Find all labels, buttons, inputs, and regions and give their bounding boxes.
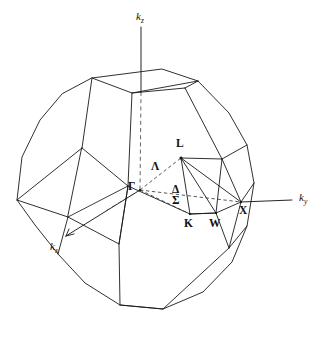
edge-topright-to-right-upper xyxy=(185,88,222,159)
brillouin-zone-figure: kz ky kx Γ L K W X Λ Δ Σ xyxy=(0,0,325,343)
front-left-facets xyxy=(17,78,128,305)
left-square-hidden-diagonal xyxy=(68,186,128,217)
kx-axis-line xyxy=(66,190,140,236)
brillouin-zone-drawing xyxy=(0,0,325,343)
edge-topleft-to-midleft xyxy=(82,78,92,148)
kz-axis-hidden-segment xyxy=(140,92,141,190)
line-L-W xyxy=(181,158,216,213)
edge-bottom-left-slant xyxy=(120,305,163,309)
edge-lowerfacet-to-bottom xyxy=(163,248,229,309)
point-label-gamma: Γ xyxy=(128,181,135,193)
line-L-upper-right xyxy=(181,158,222,159)
kx-axis-label: kx xyxy=(50,241,58,255)
kz-axis-label: kz xyxy=(136,11,144,25)
top-face-edges xyxy=(92,78,198,93)
front-centre-facet xyxy=(119,93,216,244)
top-face-front-edge xyxy=(132,88,185,93)
vertex-dot-K xyxy=(189,213,191,215)
edge-left-vertex-to-square xyxy=(17,200,68,217)
line-K-W-base xyxy=(190,213,216,214)
ky-axis-line xyxy=(241,200,292,202)
line-Delta-Gamma-X xyxy=(140,190,241,202)
ky-axis-subscript: y xyxy=(304,197,307,206)
kz-axis-subscript: z xyxy=(141,16,144,25)
vertex-dot-L xyxy=(180,157,183,160)
line-L-X xyxy=(181,158,241,202)
point-label-x: X xyxy=(239,205,247,217)
edge-X-upper-small xyxy=(222,145,247,159)
edge-square-to-bottom xyxy=(119,244,120,305)
edge-midleft-to-left-vertex xyxy=(17,148,82,200)
vertex-dot-X xyxy=(240,201,242,203)
line-L-K xyxy=(181,158,190,214)
point-label-k: K xyxy=(184,218,193,230)
line-label-sigma: Σ xyxy=(172,195,180,207)
vertex-dot-W xyxy=(215,212,217,214)
front-hexagon-edges xyxy=(128,93,132,186)
vertex-dot-Gamma xyxy=(139,189,141,191)
kx-axis-subscript: x xyxy=(55,246,58,255)
ky-axis-label: ky xyxy=(299,192,307,206)
front-hexagon-lower-edge xyxy=(119,186,128,244)
line-label-lambda: Λ xyxy=(151,161,159,173)
top-square-face xyxy=(92,78,198,93)
point-label-l: L xyxy=(176,138,184,150)
point-label-w: W xyxy=(209,218,221,230)
line-W-X xyxy=(216,202,241,213)
